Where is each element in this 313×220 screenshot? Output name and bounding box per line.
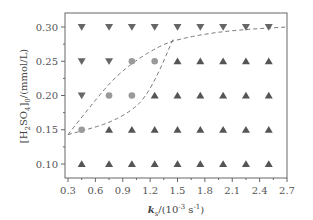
- up-triangle-marker: [196, 92, 204, 99]
- y-tick-label: 0.10: [36, 159, 58, 170]
- y-tick-label: 0.30: [36, 22, 58, 33]
- up-triangle-marker: [196, 160, 204, 167]
- x-tick-label: 1.5: [170, 185, 186, 196]
- circle-marker: [129, 92, 136, 99]
- up-triangle-marker: [196, 57, 204, 64]
- x-tick-label: 2.7: [279, 185, 295, 196]
- up-triangle-marker: [265, 92, 273, 99]
- down-triangle-marker: [265, 24, 273, 31]
- up-triangle-marker: [265, 57, 273, 64]
- down-triangle-marker: [105, 58, 113, 65]
- up-triangle-marker: [105, 126, 113, 133]
- up-triangle-marker: [174, 126, 182, 133]
- x-tick-label: 1.2: [142, 185, 158, 196]
- up-triangle-marker: [242, 160, 250, 167]
- up-triangle-marker: [174, 160, 182, 167]
- x-tick-label: 0.6: [87, 185, 103, 196]
- upper-boundary-curve: [68, 27, 287, 135]
- down-triangle-marker: [78, 24, 86, 31]
- circle-marker: [106, 92, 113, 99]
- up-triangle-marker: [219, 92, 227, 99]
- up-triangle-marker: [105, 160, 113, 167]
- up-triangle-marker: [242, 92, 250, 99]
- x-axis: 0.30.60.91.21.51.82.12.42.7: [60, 178, 295, 196]
- circle-marker: [151, 58, 158, 65]
- up-triangle-marker: [128, 126, 136, 133]
- x-tick-label: 2.1: [224, 185, 240, 196]
- x-tick-label: 0.3: [60, 185, 76, 196]
- up-triangle-marker: [174, 57, 182, 64]
- down-triangle-marker: [174, 24, 182, 31]
- lower-boundary-curve: [68, 39, 173, 134]
- x-tick-label: 0.9: [115, 185, 131, 196]
- up-triangle-marker: [219, 160, 227, 167]
- down-triangle-marker: [78, 93, 86, 100]
- y-tick-label: 0.20: [36, 90, 58, 101]
- down-triangle-marker: [219, 24, 227, 31]
- down-triangle-marker: [128, 24, 136, 31]
- down-triangle-marker: [151, 24, 159, 31]
- y-tick-label: 0.15: [36, 124, 58, 135]
- down-triangle-marker: [196, 24, 204, 31]
- x-tick-label: 2.4: [252, 185, 268, 196]
- down-triangle-marker: [105, 24, 113, 31]
- up-triangle-marker: [196, 126, 204, 133]
- circle-marker: [129, 58, 136, 65]
- up-triangle-marker: [265, 160, 273, 167]
- up-triangle-marker: [151, 126, 159, 133]
- x-tick-label: 1.8: [197, 185, 213, 196]
- up-triangle-marker: [151, 160, 159, 167]
- up-triangle-marker: [151, 92, 159, 99]
- circle-marker: [78, 126, 85, 133]
- scatter-chart: 0.100.150.200.250.30 0.30.60.91.21.51.82…: [0, 0, 313, 220]
- y-axis-label: [H2SO4]0/(mmol/L): [18, 49, 32, 143]
- x-axis-label: ks/(10-3 s-1): [148, 203, 205, 218]
- boundary-curves: [68, 27, 287, 135]
- up-triangle-marker: [128, 160, 136, 167]
- up-triangle-marker: [219, 57, 227, 64]
- up-triangle-marker: [265, 126, 273, 133]
- up-triangle-marker: [242, 57, 250, 64]
- y-axis: 0.100.150.200.250.30: [36, 22, 65, 170]
- up-triangle-marker: [78, 160, 86, 167]
- up-triangle-marker: [174, 92, 182, 99]
- up-triangle-marker: [242, 126, 250, 133]
- up-triangle-marker: [219, 126, 227, 133]
- data-points: [78, 24, 273, 167]
- y-tick-label: 0.25: [36, 56, 58, 67]
- down-triangle-marker: [78, 58, 86, 65]
